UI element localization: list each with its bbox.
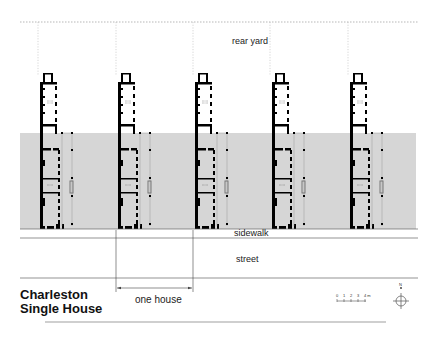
scale-tick-4: 4 m xyxy=(364,293,371,298)
diagram-title: Charleston Single House xyxy=(20,288,102,316)
lot-divisions xyxy=(38,22,348,75)
one-house-label: one house xyxy=(135,294,182,305)
scale-tick-0: 0 xyxy=(336,293,338,298)
lot-band xyxy=(20,133,416,229)
scale-tick-1: 1 xyxy=(343,293,345,298)
north-label: N xyxy=(399,282,402,287)
title-line-2: Single House xyxy=(20,302,102,316)
sidewalk-label: sidewalk xyxy=(234,228,269,238)
scale-bar-labels: 0 1 2 3 4 m xyxy=(335,293,375,299)
scale-tick-3: 3 xyxy=(357,293,359,298)
title-line-1: Charleston xyxy=(20,288,102,302)
scale-tick-2: 2 xyxy=(350,293,352,298)
rear-yard-label: rear yard xyxy=(232,36,268,46)
scale-bar xyxy=(337,299,366,302)
street-label: street xyxy=(236,254,259,264)
north-arrow-icon xyxy=(393,293,409,309)
